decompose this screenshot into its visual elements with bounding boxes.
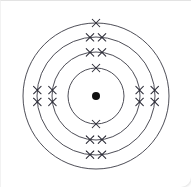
nucleus-dot	[92, 92, 100, 100]
bohr-model-diagram	[1, 1, 191, 187]
figure-viewport	[0, 0, 191, 187]
atomic-model-figure-card	[0, 0, 191, 187]
nucleus	[92, 92, 100, 100]
